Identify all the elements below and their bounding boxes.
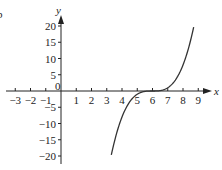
x-tick-label: 9 [196, 94, 202, 106]
origin-label: 0 [55, 80, 61, 92]
x-tick-label: 4 [119, 94, 125, 106]
x-tick-label: 3 [104, 94, 110, 106]
x-tick-label: 6 [150, 94, 156, 106]
y-tick-label: −5 [44, 101, 56, 113]
y-axis-label: y [55, 4, 61, 16]
y-tick-label: 15 [45, 36, 57, 48]
x-tick-label: −3 [9, 94, 21, 106]
x-axis-label: x [213, 85, 219, 97]
y-axis-arrow-icon [58, 15, 64, 24]
part-label: b [0, 8, 3, 20]
y-tick-label: 20 [45, 20, 57, 32]
x-tick-label: 2 [89, 94, 95, 106]
x-tick-label: 1 [74, 94, 80, 106]
x-axis-arrow-icon [203, 88, 212, 94]
y-tick-label: −15 [39, 134, 57, 146]
y-tick-label: 5 [51, 69, 57, 81]
x-tick-label: −2 [25, 94, 37, 106]
y-tick-label: −20 [39, 150, 57, 162]
y-tick-label: −10 [39, 118, 57, 130]
x-tick-label: 7 [165, 94, 171, 106]
cubic-function-graph: b xy0 −3−2−11234567892015105−5−10−15−20 [0, 0, 222, 170]
y-tick-label: 10 [45, 53, 57, 65]
x-tick-label: 8 [180, 94, 186, 106]
